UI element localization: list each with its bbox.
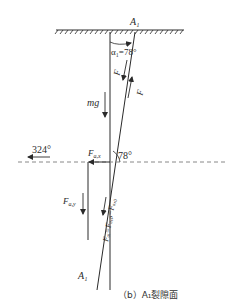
- angle-arc-top: [110, 42, 131, 44]
- figure-caption: （b）A₁裂隙面: [118, 289, 178, 300]
- resultant-formula: Fₐᵢ=Fₐ,ₚ−Fₐ,₀: [101, 198, 118, 244]
- angle-label-top: α₁=78°: [111, 47, 137, 57]
- force-label-parallel: F: [134, 88, 145, 97]
- force-arrow-parallel: [128, 77, 132, 98]
- ground-surface: [55, 30, 184, 34]
- angle-label-dip: 78°: [118, 150, 132, 161]
- direction-label: 324°: [32, 144, 51, 155]
- force-arrow-normal: [123, 60, 127, 80]
- force-label-normal: F: [111, 68, 122, 77]
- gravity-label: mg: [87, 97, 99, 108]
- point-label-bottom: A₁: [77, 270, 88, 281]
- force-label-x: Fa,x: [87, 148, 101, 159]
- force-label-y: Fa,y: [62, 196, 76, 207]
- point-label-top: A₁: [129, 16, 140, 27]
- force-diagram: A₁ α₁=78° F F mg 324° Fa,x 78° Fa,y Fₐᵢ=…: [0, 0, 239, 302]
